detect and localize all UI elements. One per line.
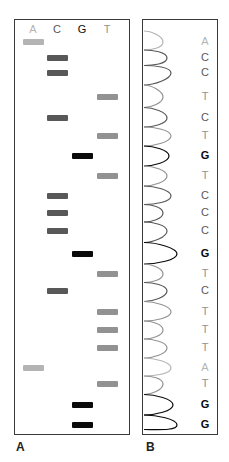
lane-label-t: T bbox=[97, 23, 117, 35]
trace-peak-t bbox=[144, 302, 171, 322]
base-call-g: G bbox=[199, 149, 211, 161]
gel-band-g bbox=[72, 402, 93, 408]
trace-peak-t bbox=[144, 85, 163, 108]
base-call-t: T bbox=[199, 90, 211, 102]
trace-peak-t bbox=[144, 376, 163, 395]
trace-peak-t bbox=[144, 339, 167, 358]
gel-band-c bbox=[47, 228, 68, 234]
base-call-a: A bbox=[199, 361, 211, 373]
gel-band-t bbox=[97, 271, 118, 277]
gel-band-c bbox=[47, 193, 68, 199]
base-call-c: C bbox=[199, 224, 211, 236]
gel-band-t bbox=[97, 133, 118, 139]
base-call-t: T bbox=[199, 323, 211, 335]
trace-peak-c bbox=[144, 66, 171, 86]
gel-band-c bbox=[47, 210, 68, 216]
base-call-c: C bbox=[199, 206, 211, 218]
trace-peak-c bbox=[144, 186, 171, 205]
base-call-a: A bbox=[199, 35, 211, 47]
base-call-t: T bbox=[199, 169, 211, 181]
base-call-g: G bbox=[199, 418, 211, 430]
trace-peak-t bbox=[144, 166, 167, 186]
gel-band-t bbox=[97, 345, 118, 351]
gel-band-g bbox=[72, 422, 93, 428]
gel-band-g bbox=[72, 153, 93, 159]
lane-label-c: C bbox=[47, 23, 67, 35]
lane-label-a: A bbox=[23, 23, 43, 35]
base-call-c: C bbox=[199, 189, 211, 201]
base-call-g: G bbox=[199, 247, 211, 259]
panel-b-label: B bbox=[146, 440, 155, 454]
trace-peak-t bbox=[144, 127, 171, 146]
gel-band-t bbox=[97, 327, 118, 333]
trace-peak-c bbox=[144, 205, 163, 223]
base-call-t: T bbox=[199, 267, 211, 279]
trace-peak-c bbox=[144, 222, 167, 243]
gel-band-t bbox=[97, 381, 118, 387]
base-call-g: G bbox=[199, 398, 211, 410]
trace-peak-a bbox=[144, 31, 163, 50]
gel-panel: ACGT bbox=[14, 19, 130, 435]
base-call-c: C bbox=[199, 111, 211, 123]
gel-band-t bbox=[97, 309, 118, 315]
panel-a-label: A bbox=[16, 440, 25, 454]
trace-peak-a bbox=[144, 358, 171, 376]
chromatogram-panel: ACCTCTGTCCCGTCTTTATGG bbox=[142, 19, 218, 435]
gel-band-a bbox=[23, 365, 44, 371]
base-call-c: C bbox=[199, 51, 211, 63]
trace-peak-g bbox=[144, 415, 177, 430]
trace-peak-g bbox=[144, 243, 177, 265]
gel-band-c bbox=[47, 55, 68, 61]
trace-peak-t bbox=[144, 321, 163, 339]
lane-label-g: G bbox=[72, 23, 92, 35]
gel-band-c bbox=[47, 288, 68, 294]
base-call-c: C bbox=[199, 66, 211, 78]
base-call-c: C bbox=[199, 284, 211, 296]
base-call-t: T bbox=[199, 377, 211, 389]
trace-peak-c bbox=[144, 50, 167, 66]
trace-peak-c bbox=[144, 108, 167, 128]
gel-band-t bbox=[97, 173, 118, 179]
trace-peak-c bbox=[144, 283, 167, 302]
gel-band-c bbox=[47, 70, 68, 76]
trace-peak-g bbox=[144, 395, 173, 416]
base-call-t: T bbox=[199, 305, 211, 317]
gel-band-c bbox=[47, 115, 68, 121]
base-call-t: T bbox=[199, 129, 211, 141]
trace-peak-t bbox=[144, 264, 163, 283]
gel-band-g bbox=[72, 251, 93, 257]
trace-peak-g bbox=[144, 146, 169, 166]
base-call-t: T bbox=[199, 341, 211, 353]
gel-band-t bbox=[97, 94, 118, 100]
gel-band-a bbox=[23, 39, 44, 45]
